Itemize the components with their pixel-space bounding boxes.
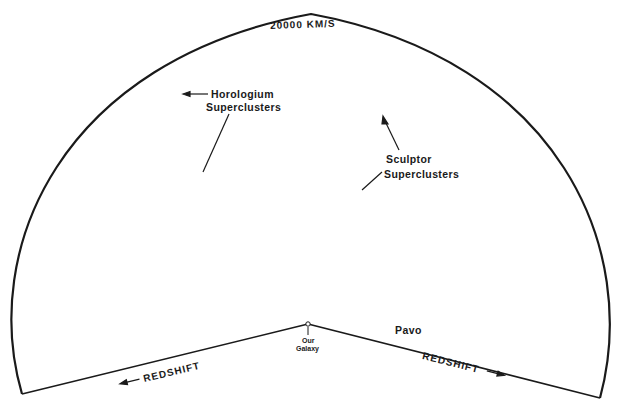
redshift-left-label: REDSHIFT [142,360,201,384]
horologium-label-2: Superclusters [206,101,281,113]
left-arrow-icon [119,377,140,387]
wedge-diagram: 20000 KM/S Horologium Superclusters Scul… [0,0,622,408]
sculptor-label-1: Sculptor [386,153,432,165]
our-galaxy-label-2: Galaxy [296,345,319,353]
sculptor-label-2: Superclusters [384,168,459,180]
pavo-label: Pavo [395,324,422,336]
redshift-axis-left [22,324,308,394]
our-galaxy-label-1: Our [302,337,315,344]
horologium-label-1: Horologium [211,88,274,100]
our-galaxy-marker-icon [306,322,310,326]
velocity-limit-label: 20000 KM/S [270,18,336,31]
redshift-right-label: REDSHIFT [421,350,480,375]
